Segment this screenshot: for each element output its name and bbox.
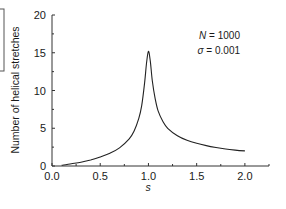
annotation-sigma: σ = 0.001 bbox=[198, 45, 241, 56]
y-axis: 05101520 bbox=[34, 9, 55, 172]
x-axis: 0.00.51.01.52.0 bbox=[44, 163, 269, 182]
x-tick-label: 2.0 bbox=[237, 170, 252, 182]
x-tick-label: 0.5 bbox=[93, 170, 108, 182]
svg-text:N = 1000: N = 1000 bbox=[199, 30, 240, 41]
cropped-frame-edge bbox=[0, 9, 4, 71]
y-tick-label: 5 bbox=[40, 122, 46, 134]
y-tick-label: 15 bbox=[34, 47, 46, 59]
data-line bbox=[62, 51, 245, 165]
y-axis-title: Number of helical stretches bbox=[9, 26, 21, 153]
svg-text:σ = 0.001: σ = 0.001 bbox=[198, 45, 241, 56]
annotation-n: N = 1000 bbox=[199, 30, 240, 41]
x-tick-label: 1.5 bbox=[189, 170, 204, 182]
chart: 05101520 0.00.51.01.52.0 Number of helic… bbox=[0, 0, 286, 209]
x-tick-label: 0.0 bbox=[44, 170, 59, 182]
x-axis-title: s bbox=[145, 181, 151, 193]
y-tick-label: 10 bbox=[34, 85, 46, 97]
y-tick-label: 20 bbox=[34, 9, 46, 21]
